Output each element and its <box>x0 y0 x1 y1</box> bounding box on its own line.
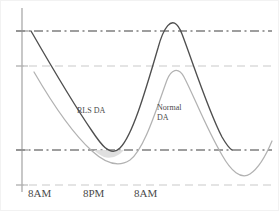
series-label-normal-da: Normal DA <box>157 103 181 122</box>
circadian-dopamine-chart: RLS DA Normal DA 8AM 8PM 8AM <box>0 0 279 211</box>
series-label-rls-da: RLS DA <box>77 106 105 116</box>
curve-rls-da <box>31 23 232 152</box>
x-tick-label-0: 8AM <box>28 187 51 199</box>
chart-plot-area <box>0 0 279 211</box>
curve-normal-da <box>34 70 272 175</box>
x-tick-label-1: 8PM <box>83 187 104 199</box>
x-tick-label-2: 8AM <box>134 187 157 199</box>
